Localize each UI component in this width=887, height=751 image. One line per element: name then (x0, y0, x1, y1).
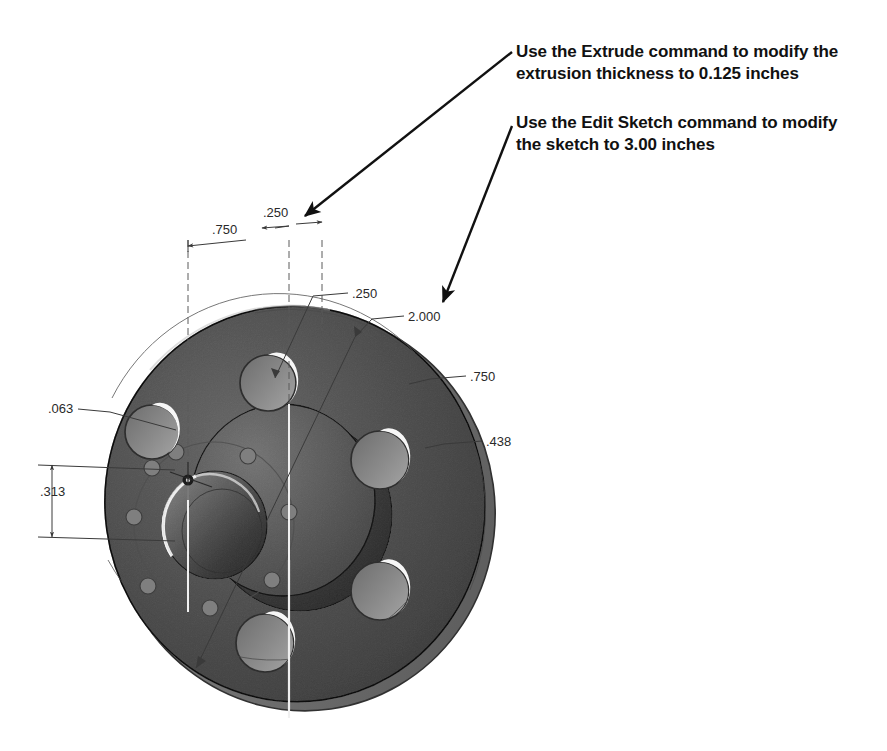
extrude-callout-leader (305, 52, 512, 216)
dimension-label-2000[interactable]: 2.000 (408, 309, 441, 324)
dimension-label-250-right[interactable]: .250 (352, 286, 377, 301)
dimension-label-313[interactable]: .313 (40, 484, 65, 499)
dimension-label-750-right[interactable]: .750 (470, 369, 495, 384)
dim-750-top-geometry (188, 226, 289, 252)
sketch-callout-leader (443, 126, 512, 302)
part-solid-body[interactable] (79, 281, 521, 735)
annotation-edit-sketch-command: Use the Edit Sketch command to modify th… (516, 112, 866, 157)
cad-screenshot-canvas: Use the Extrude command to modify the ex… (0, 0, 887, 751)
callout-arrows (305, 52, 512, 302)
dimension-label-438[interactable]: .438 (486, 434, 511, 449)
dim-250-top-geometry (262, 222, 322, 228)
annotation-extrude-command: Use the Extrude command to modify the ex… (516, 41, 866, 86)
central-bore (163, 471, 267, 579)
dimension-label-063[interactable]: .063 (48, 401, 73, 416)
dimension-label-750-top[interactable]: .750 (212, 222, 237, 237)
dimension-label-250-top[interactable]: .250 (263, 205, 288, 220)
